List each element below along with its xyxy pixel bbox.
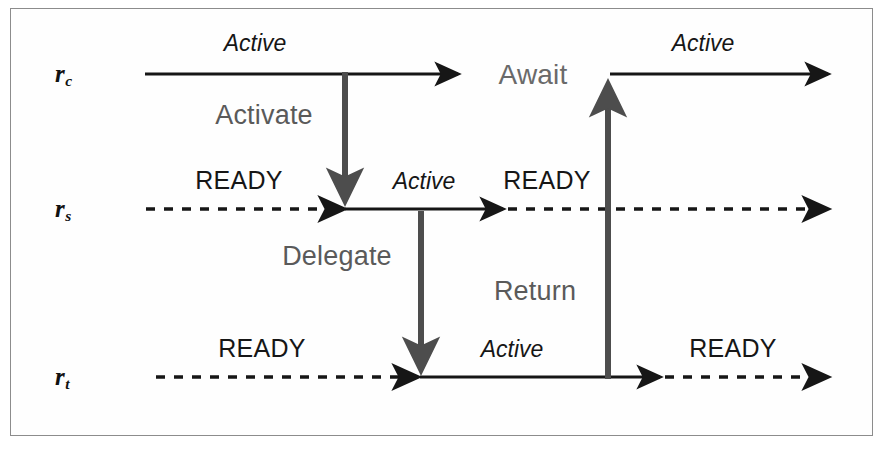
lifeline-wires <box>0 0 883 449</box>
state-label-rs-ready-left: READY <box>195 166 283 195</box>
message-label-return: Return <box>494 276 576 307</box>
state-lifeline-diagram: rc rs rt Active Await Active READY Activ… <box>0 0 883 449</box>
state-label-rs-ready-right: READY <box>503 166 591 195</box>
message-label-delegate: Delegate <box>282 241 392 272</box>
state-label-rc-await: Await <box>499 59 568 91</box>
state-label-rs-active: Active <box>393 168 456 195</box>
lane-label-rt: rt <box>55 363 70 393</box>
lane-label-rc: rc <box>55 60 73 90</box>
state-label-rt-active: Active <box>481 336 544 363</box>
state-label-rt-ready-left: READY <box>218 334 306 363</box>
message-label-activate: Activate <box>215 100 313 131</box>
state-label-rc-active-right: Active <box>672 30 735 57</box>
state-label-rt-ready-right: READY <box>689 334 777 363</box>
lane-label-rs: rs <box>55 195 72 225</box>
state-label-rc-active-left: Active <box>224 30 287 57</box>
